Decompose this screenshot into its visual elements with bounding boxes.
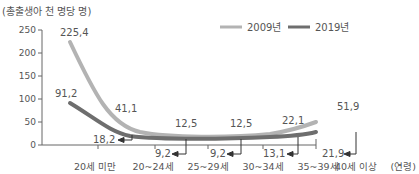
legend: 2009년 2019년	[220, 22, 349, 33]
ytick-50: 50	[25, 117, 37, 127]
x-category-labels: 20세 미만 20~24세 25~29세 30~34세 35~39세 40세 이…	[74, 161, 377, 172]
ytick-100: 100	[19, 94, 36, 104]
category-2: 25~29세	[187, 161, 228, 172]
ytick-0: 0	[30, 140, 36, 150]
category-3: 30~34세	[242, 161, 283, 172]
label-2019-2: 9,2	[155, 148, 171, 159]
label-2009-2: 12,5	[175, 118, 197, 129]
ytick-150: 150	[19, 71, 36, 81]
category-4: 35~39세	[297, 161, 338, 172]
label-2009-1: 41,1	[115, 103, 137, 114]
label-2009-5: 51,9	[337, 101, 359, 112]
category-1: 20~24세	[132, 161, 173, 172]
chart-container: (총출생아 천 명당 명) 250 200 150 100 50 0 2009년…	[0, 0, 419, 174]
label-2019-1: 18,2	[93, 134, 115, 145]
label-2019-5: 21,9	[322, 148, 344, 159]
label-2019-3: 9,2	[210, 148, 226, 159]
ytick-200: 200	[19, 48, 36, 58]
y-axis-unit-label: (총출생아 천 명당 명)	[2, 6, 91, 17]
x-axis-unit-label: (연령)	[391, 161, 416, 172]
ytick-250: 250	[19, 25, 36, 35]
category-0: 20세 미만	[74, 161, 116, 172]
legend-2019-label: 2019년	[315, 22, 349, 33]
label-2009-4: 22,1	[282, 115, 304, 126]
label-2009-3: 12,5	[230, 118, 252, 129]
y-ticks: 250 200 150 100 50 0	[19, 25, 42, 150]
label-2019-4: 13,1	[263, 148, 285, 159]
label-2019-0: 91,2	[55, 88, 77, 99]
category-5: 40세 이상	[335, 161, 377, 172]
legend-2009-label: 2009년	[247, 22, 281, 33]
label-2009-0: 225,4	[60, 27, 89, 38]
series-2009-labels: 225,4 41,1 12,5 12,5 22,1 51,9	[60, 27, 359, 129]
